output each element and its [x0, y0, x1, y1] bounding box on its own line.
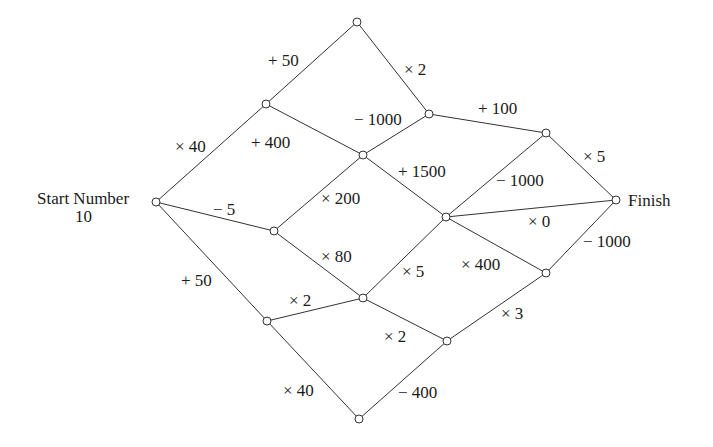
node-G: [359, 294, 367, 302]
start-value: 10: [75, 207, 92, 226]
edge-label: − 400: [398, 383, 437, 402]
edge-label: + 50: [181, 271, 212, 290]
edge-label: × 3: [501, 304, 523, 323]
edge-K-J: [359, 341, 447, 419]
node-B: [425, 110, 433, 118]
path-diagram: × 40+ 50× 2+ 400− 1000+ 100× 5+ 1500− 10…: [0, 0, 713, 447]
edge-label: × 40: [175, 137, 206, 156]
edge-I-K: [267, 321, 359, 419]
edge-label: × 200: [321, 189, 360, 208]
edge-S-A: [156, 104, 266, 202]
node-K: [355, 415, 363, 423]
edge-S-I: [156, 202, 267, 321]
edge-label: − 5: [213, 200, 235, 219]
finish-node: [612, 196, 620, 204]
edge-G-F: [363, 217, 446, 298]
start-node: [152, 198, 160, 206]
node-A: [262, 100, 270, 108]
edge-label: × 400: [461, 255, 500, 274]
edge-label: × 2: [404, 60, 426, 79]
edge-label: + 400: [251, 133, 290, 152]
edge-label: + 50: [268, 51, 299, 70]
edge-labels-layer: × 40+ 50× 2+ 400− 1000+ 100× 5+ 1500− 10…: [175, 51, 631, 402]
edge-label: × 5: [402, 262, 424, 281]
edge-label: − 1000: [496, 171, 544, 190]
finish-label: Finish: [628, 191, 671, 210]
edge-label: × 0: [528, 212, 550, 231]
edge-label: × 2: [384, 327, 406, 346]
edge-label: + 100: [478, 99, 517, 118]
edge-label: × 40: [283, 381, 314, 400]
edge-E-FIN: [546, 133, 616, 200]
node-T: [353, 18, 361, 26]
diagram-svg: × 40+ 50× 2+ 400− 1000+ 100× 5+ 1500− 10…: [0, 0, 713, 447]
edge-label: × 5: [583, 147, 605, 166]
node-I: [263, 317, 271, 325]
start-label: Start Number: [37, 189, 129, 208]
edge-I-G: [267, 298, 363, 321]
edge-label: × 2: [289, 291, 311, 310]
edge-label: − 1000: [354, 110, 402, 129]
node-C: [359, 151, 367, 159]
edge-label: − 1000: [583, 232, 631, 251]
edge-label: + 1500: [398, 162, 446, 181]
node-H: [542, 269, 550, 277]
node-D: [270, 227, 278, 235]
node-E: [542, 129, 550, 137]
node-J: [443, 337, 451, 345]
edge-J-H: [447, 273, 546, 341]
node-F: [442, 213, 450, 221]
edge-label: × 80: [321, 247, 352, 266]
